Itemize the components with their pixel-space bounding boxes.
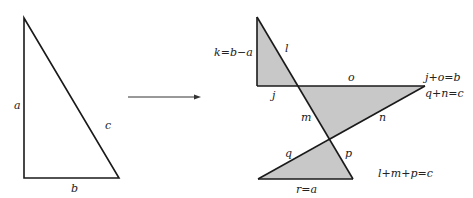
label-k: k=b−a — [214, 46, 253, 59]
middle-piece — [298, 86, 425, 140]
label-p: p — [345, 147, 352, 160]
label-l: l — [285, 42, 289, 55]
original-triangle: a c b — [14, 18, 119, 195]
equation-q-n: q+n=c — [425, 87, 464, 100]
label-j: j — [269, 89, 276, 102]
transform-arrow — [128, 95, 201, 100]
label-q: q — [285, 147, 292, 160]
bottom-piece — [258, 140, 353, 179]
label-b: b — [71, 182, 78, 195]
pythagorean-rearrangement-diagram: a c b k=b−a l j o m n q p r=a j+o=b q+n=… — [0, 0, 473, 198]
label-m: m — [301, 111, 311, 124]
rearranged-figure: k=b−a l j o m n q p r=a j+o=b q+n=c l+m+… — [214, 17, 464, 196]
label-r: r=a — [296, 183, 317, 196]
label-n: n — [379, 111, 386, 124]
equation-l-m-p: l+m+p=c — [378, 167, 433, 180]
label-o: o — [348, 71, 355, 84]
equation-j-o: j+o=b — [422, 71, 461, 84]
label-a: a — [14, 99, 21, 112]
label-c: c — [105, 119, 111, 132]
